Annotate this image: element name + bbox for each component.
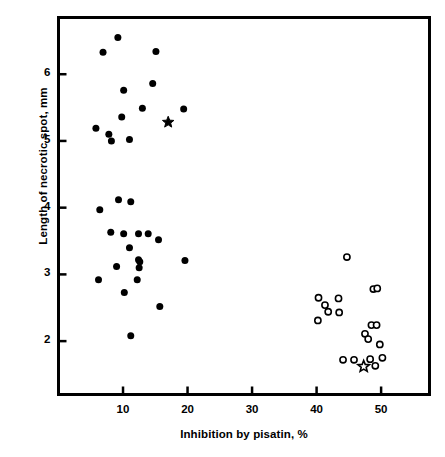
x-tick-label: 30	[237, 403, 267, 415]
data-point-open-circle	[367, 356, 373, 362]
data-point-filled-circle	[120, 87, 127, 94]
data-point-filled-circle	[127, 198, 134, 205]
data-point-open-circle	[373, 322, 379, 328]
y-tick-label: 3	[27, 266, 51, 278]
data-point-open-circle	[379, 355, 385, 361]
data-point-filled-circle	[136, 264, 143, 271]
data-point-filled-circle	[152, 48, 159, 55]
plot-frame	[59, 18, 430, 395]
axes-frame	[59, 18, 430, 395]
data-point-open-circle	[372, 363, 378, 369]
data-point-open-circle	[340, 357, 346, 363]
data-point-filled-circle	[135, 230, 142, 237]
data-point-filled-circle	[126, 244, 133, 251]
data-point-filled-circle	[121, 289, 128, 296]
data-point-filled-circle	[149, 80, 156, 87]
data-point-filled-circle	[180, 105, 187, 112]
x-tick-label: 40	[302, 403, 332, 415]
data-point-filled-circle	[115, 196, 122, 203]
y-tick-label: 2	[27, 333, 51, 345]
data-point-filled-circle	[126, 136, 133, 143]
x-tick-label: 50	[366, 403, 396, 415]
data-point-filled-circle	[145, 230, 152, 237]
data-point-open-circle	[325, 309, 331, 315]
data-point-filled-circle	[92, 125, 99, 132]
y-tick-label: 6	[27, 66, 51, 78]
data-point-open-circle	[315, 295, 321, 301]
y-tick-label: 4	[27, 200, 51, 212]
scatter-plot-figure: Length of necrotic spot, mm Inhibition b…	[0, 0, 445, 457]
data-point-open-circle	[335, 295, 341, 301]
x-tick-label: 20	[173, 403, 203, 415]
x-tick-label: 10	[108, 403, 138, 415]
data-point-filled-circle	[155, 236, 162, 243]
data-point-filled-circle	[107, 229, 114, 236]
data-markers	[92, 34, 385, 371]
data-point-open-circle	[351, 357, 357, 363]
data-point-filled-circle	[95, 276, 102, 283]
data-point-open-circle	[336, 309, 342, 315]
data-point-filled-circle	[139, 105, 146, 112]
data-point-filled-circle	[134, 276, 141, 283]
data-point-open-circle	[365, 336, 371, 342]
data-point-filled-circle	[114, 34, 121, 41]
axis-ticks	[59, 74, 382, 394]
data-point-filled-circle	[96, 206, 103, 213]
data-point-filled-circle	[100, 49, 107, 56]
plot-canvas	[0, 0, 445, 457]
data-point-filled-circle	[136, 258, 143, 265]
data-point-filled-star	[162, 116, 173, 127]
data-point-open-circle	[377, 341, 383, 347]
data-point-filled-circle	[118, 113, 125, 120]
data-point-filled-circle	[120, 230, 127, 237]
data-point-filled-circle	[127, 332, 134, 339]
data-point-filled-circle	[156, 303, 163, 310]
data-point-filled-circle	[108, 137, 115, 144]
data-point-filled-circle	[105, 131, 112, 138]
data-point-open-circle	[315, 317, 321, 323]
data-point-open-circle	[322, 302, 328, 308]
data-point-filled-circle	[113, 263, 120, 270]
y-tick-label: 5	[27, 133, 51, 145]
data-point-open-circle	[344, 254, 350, 260]
data-point-open-circle	[374, 285, 380, 291]
data-point-filled-circle	[181, 257, 188, 264]
